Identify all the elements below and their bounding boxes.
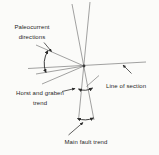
figure-canvas: Paleocurrent directions Line of section … (0, 0, 159, 155)
label-paleocurrent-line2: directions (7, 33, 57, 43)
main-fault-range-arrow (78, 118, 94, 120)
label-horst-and-graben-trend: Horst and graben trend (12, 89, 68, 108)
paleocurrent-line-lower (42, 66, 84, 84)
line-of-section-line (28, 62, 146, 69)
short-trend-line (87, 76, 100, 87)
label-paleocurrent-directions: Paleocurrent directions (7, 23, 57, 42)
label-line-of-section: Line of section (106, 82, 158, 92)
paleocurrent-range-arrow (44, 51, 48, 73)
paleocurrent-line-middle (36, 66, 84, 74)
line-intersection-hub (83, 65, 86, 68)
label-paleocurrent-line1: Paleocurrent (7, 23, 57, 33)
main-fault-line-b (79, 2, 91, 120)
label-horst-graben-line1: Horst and graben (12, 89, 68, 99)
line-of-section-pointer-arrow (123, 65, 132, 74)
paleocurrent-line-upper (36, 45, 84, 66)
main-fault-pointer-arrow (69, 123, 84, 136)
horst-graben-range-arrow (79, 88, 93, 90)
label-horst-graben-line2: trend (12, 99, 68, 109)
label-main-fault-trend: Main fault trend (56, 138, 116, 148)
